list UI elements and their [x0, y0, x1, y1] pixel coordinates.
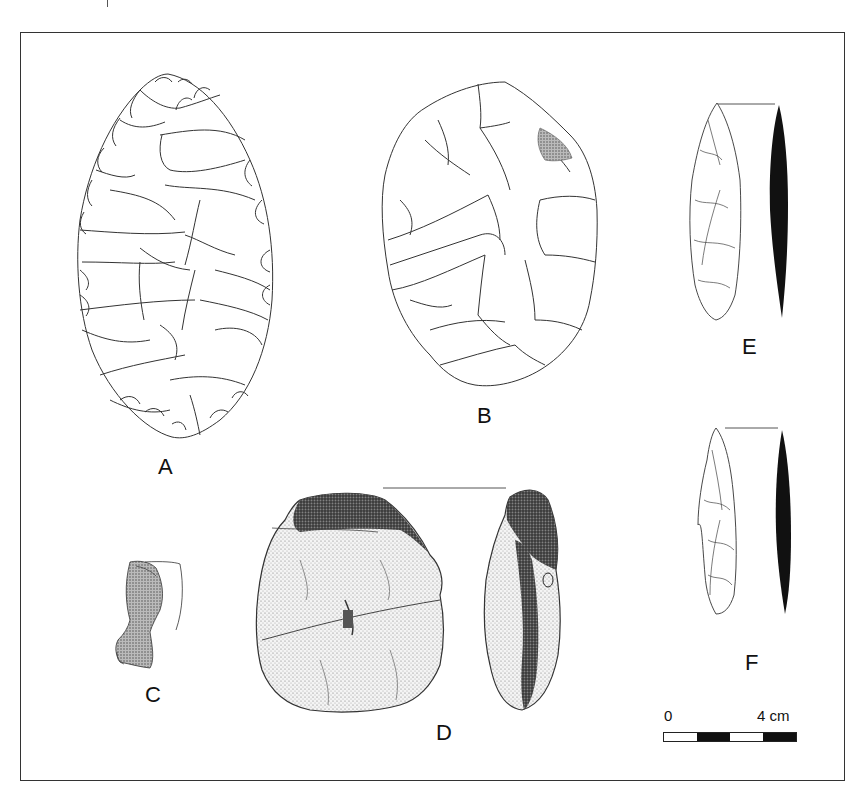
artifact-label-e: E [742, 336, 757, 358]
scale-segment-1 [664, 733, 697, 741]
artifact-f-drawing [698, 428, 791, 614]
scale-segment-2 [697, 733, 730, 741]
scale-end-label: 4 cm [757, 707, 790, 724]
artifact-c-drawing [116, 561, 183, 668]
artifact-label-c: C [145, 684, 161, 706]
artifact-label-d: D [436, 722, 452, 744]
artifact-label-b: B [477, 405, 492, 427]
scale-segment-4 [763, 733, 796, 741]
artifact-e-drawing [690, 103, 788, 320]
scale-start-label: 0 [664, 707, 672, 724]
artifact-a-drawing [78, 74, 273, 438]
artifact-b-drawing [382, 82, 597, 386]
artifact-label-a: A [158, 456, 173, 478]
artifact-plate [0, 0, 868, 803]
artifact-label-f: F [745, 652, 758, 674]
artifact-d-face-drawing [256, 493, 443, 712]
scale-bar [663, 732, 797, 742]
scale-segment-3 [730, 733, 763, 741]
